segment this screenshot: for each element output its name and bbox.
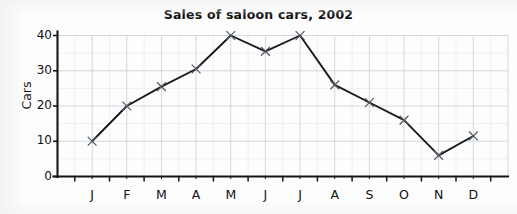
x-axis-month-label-march: M: [152, 187, 172, 202]
x-axis-month-label-january: J: [82, 187, 102, 202]
x-axis-month-label-december: D: [463, 187, 483, 202]
chart-page: Sales of saloon cars, 2002 010203040 JFM…: [0, 0, 517, 214]
y-axis-title: Cars: [19, 66, 34, 126]
x-axis-month-label-september: S: [359, 187, 379, 202]
axis-tick-marks: [53, 36, 491, 182]
y-axis-tick-label: 10: [14, 133, 52, 147]
x-axis-month-label-july: J: [290, 187, 310, 202]
x-axis-month-label-may: M: [221, 187, 241, 202]
x-axis-month-label-june: J: [255, 187, 275, 202]
y-axis-tick-label: 0: [14, 169, 52, 183]
x-axis-month-label-april: A: [186, 187, 206, 202]
x-axis-month-label-october: O: [394, 187, 414, 202]
line-chart-plot: [0, 0, 517, 214]
x-axis-month-label-august: A: [325, 187, 345, 202]
y-axis-tick-label: 40: [14, 28, 52, 42]
x-axis-month-label-february: F: [117, 187, 137, 202]
x-axis-month-label-november: N: [429, 187, 449, 202]
